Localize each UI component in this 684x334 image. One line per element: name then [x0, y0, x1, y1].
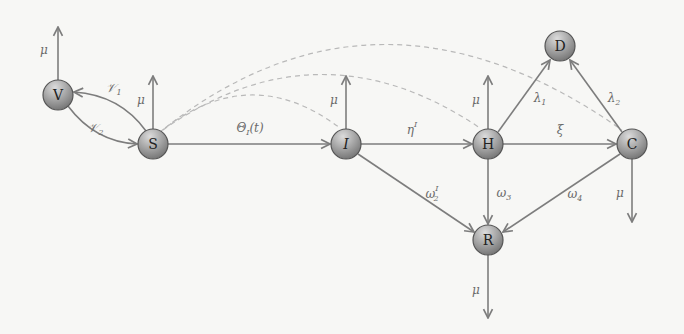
- edge-label-omega2: ωI2: [425, 184, 439, 203]
- outflow-label-v: μ: [40, 43, 48, 57]
- node-s: S: [138, 129, 168, 159]
- outflows: [58, 27, 632, 318]
- node-r: R: [473, 225, 503, 255]
- edge-label-omega3: ω3: [497, 186, 512, 202]
- edge-h-to-d: [498, 60, 550, 132]
- node-d: D: [545, 31, 575, 61]
- node-r-label: R: [483, 232, 494, 248]
- node-c: C: [617, 129, 647, 159]
- outflow-label-h: μ: [472, 93, 480, 107]
- edge-label-eta: ηI: [407, 120, 418, 138]
- edge-label-lambda1: λ1: [533, 91, 547, 107]
- flow-diagram: μ μ μ μ μ μ 𝒱1 𝒱2 ΘI(t) ηI ξ λ1 λ2 ωI2 ω…: [0, 0, 684, 334]
- node-h-label: H: [482, 136, 494, 152]
- edge-label-theta: ΘI(t): [236, 121, 264, 137]
- edge-label-omega4: ω4: [568, 187, 583, 203]
- node-c-label: C: [627, 136, 638, 152]
- edge-label-v2: 𝒱2: [88, 121, 103, 137]
- edge-label-xi: ξ: [557, 123, 565, 137]
- edge-i-to-r: [358, 154, 474, 232]
- node-v: V: [43, 80, 73, 110]
- outflow-label-c: μ: [616, 186, 624, 200]
- dashed-link-s-h: [163, 74, 480, 130]
- outflow-label-r: μ: [472, 283, 480, 297]
- edge-s-to-v: [74, 92, 146, 131]
- outflow-label-i: μ: [330, 93, 338, 107]
- edge-label-lambda2: λ2: [607, 91, 621, 107]
- node-s-label: S: [148, 136, 158, 152]
- edge-label-v1: 𝒱1: [106, 81, 121, 97]
- node-d-label: D: [554, 38, 565, 54]
- node-v-label: V: [52, 87, 64, 103]
- outflow-label-s: μ: [137, 93, 145, 107]
- node-i: I: [331, 129, 361, 159]
- node-h: H: [473, 129, 503, 159]
- node-i-label: I: [342, 136, 349, 152]
- edge-c-to-r: [503, 154, 620, 232]
- outflow-labels: μ μ μ μ μ μ: [40, 43, 624, 297]
